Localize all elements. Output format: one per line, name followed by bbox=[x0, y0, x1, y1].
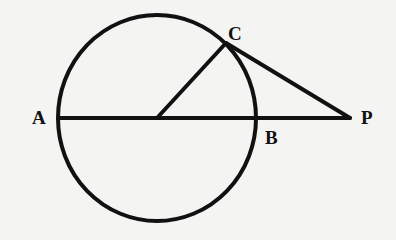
segment-oc bbox=[157, 43, 226, 118]
segment-cp bbox=[226, 43, 350, 118]
diagram-canvas: A B C P bbox=[0, 0, 396, 240]
label-c: C bbox=[228, 24, 242, 43]
geometry-figure bbox=[0, 0, 396, 240]
label-b: B bbox=[265, 128, 278, 147]
label-a: A bbox=[32, 108, 46, 127]
label-p: P bbox=[361, 108, 373, 127]
